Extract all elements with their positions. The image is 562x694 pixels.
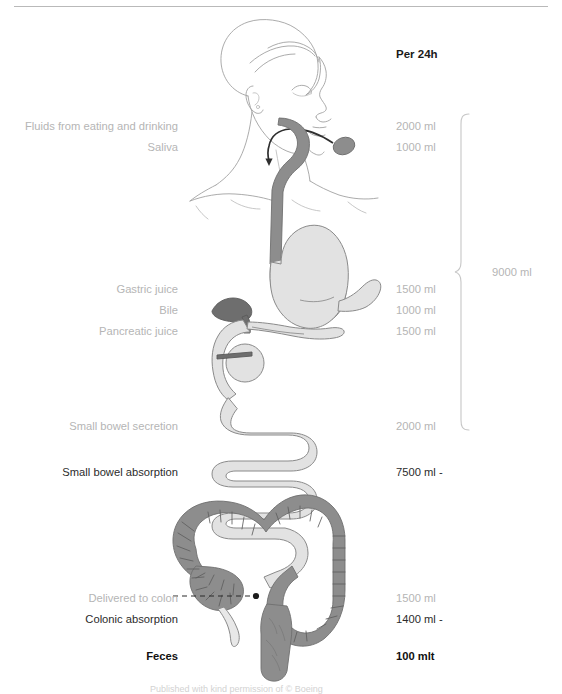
label-feces: Feces [146, 650, 178, 662]
value-small-bowel-secretion: 2000 ml [396, 420, 436, 432]
label-colonic-absorption: Colonic absorption [85, 613, 178, 625]
figure-caption: Published with kind permission of © Boei… [150, 684, 562, 694]
value-fluids-from-eating-and-drinking: 2000 ml [396, 120, 436, 132]
label-fluids-from-eating-and-drinking: Fluids from eating and drinking [25, 120, 178, 132]
total-volume-label: 9000 ml [492, 266, 532, 278]
value-bile: 1000 ml [396, 304, 436, 316]
value-colonic-absorption: 1400 ml - [396, 613, 443, 625]
label-small-bowel-absorption: Small bowel absorption [62, 466, 178, 478]
total-volume-brace [455, 114, 469, 430]
value-feces: 100 mlt [396, 650, 435, 662]
duodenum-and-pancreas [212, 320, 344, 400]
gallbladder-and-bile-duct [212, 298, 252, 333]
value-gastric-juice: 1500 ml [396, 283, 436, 295]
esophagus [270, 118, 309, 264]
label-small-bowel-secretion: Small bowel secretion [69, 420, 178, 432]
label-saliva: Saliva [148, 141, 178, 153]
saliva-flow-arrow [265, 129, 333, 166]
label-delivered-to-colon: Delivered to colon [88, 592, 178, 604]
head-and-torso-linework [190, 20, 378, 219]
salivary-gland [331, 135, 357, 158]
value-delivered-to-colon: 1500 ml [396, 592, 436, 604]
small-bowel [212, 398, 317, 588]
value-pancreatic-juice: 1500 ml [396, 325, 436, 337]
stomach [270, 225, 381, 328]
value-saliva: 1000 ml [396, 141, 436, 153]
label-bile: Bile [159, 304, 178, 316]
rectum [261, 604, 292, 681]
label-pancreatic-juice: Pancreatic juice [99, 325, 178, 337]
label-gastric-juice: Gastric juice [116, 283, 178, 295]
figure-canvas: .body-ln { fill:none; stroke:#a2a2a2; st… [0, 0, 562, 694]
per-24h-header: Per 24h [396, 48, 438, 60]
large-intestine-colon [173, 495, 345, 647]
delivered-to-colon-leader [173, 593, 259, 599]
digestive-tract-illustration: .body-ln { fill:none; stroke:#a2a2a2; st… [0, 0, 562, 694]
value-small-bowel-absorption: 7500 ml - [396, 466, 443, 478]
top-divider-rule [14, 6, 548, 7]
